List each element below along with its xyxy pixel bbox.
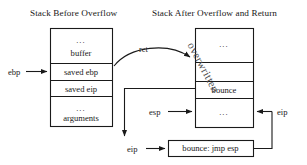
right-stack-title: Stack After Overflow and Return [152, 8, 277, 18]
eip-right-connector [254, 112, 273, 149]
esp-label: esp [149, 107, 160, 117]
left-stack-row-3-label: arguments [50, 113, 112, 123]
eip-right-label: eip [277, 107, 288, 117]
ret-label: ret [139, 45, 148, 54]
ebp-label: ebp [8, 67, 20, 77]
diagram-vector-layer [0, 0, 307, 165]
left-stack-row-0-dots: ... [50, 35, 112, 45]
bounce-code-box-label: bounce: jmp esp [168, 143, 253, 153]
left-stack-row-2-label: saved eip [50, 84, 112, 94]
left-stack-row-3-dots: ... [50, 103, 112, 113]
diagram-canvas: Stack Before Overflow Stack After Overfl… [0, 0, 307, 165]
ret-curved-arrow [114, 48, 190, 66]
right-stack-row-0-dots: ... [195, 39, 253, 49]
left-stack-row-1-label: saved ebp [50, 67, 112, 77]
eip-bottom-label: eip [127, 144, 138, 154]
left-stack-row-0-label: buffer [50, 48, 112, 58]
left-stack-title: Stack Before Overflow [30, 8, 117, 18]
